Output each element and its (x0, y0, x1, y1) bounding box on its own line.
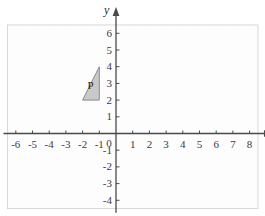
y-tick-label--2: -2 (103, 161, 112, 172)
x-tick-label--4: -4 (42, 139, 56, 150)
x-tick-label-6: 6 (209, 139, 223, 150)
y-tick-label-4: 4 (107, 61, 113, 72)
x-tick-label-3: 3 (159, 139, 173, 150)
x-tick-label-7: 7 (226, 139, 240, 150)
y-tick-label--1: -1 (103, 145, 112, 156)
y-tick-label-2: 2 (107, 95, 113, 106)
y-tick-label--4: -4 (103, 195, 112, 206)
x-tick-label-5: 5 (193, 139, 207, 150)
y-axis-name: y (104, 4, 109, 16)
y-tick-label--3: -3 (103, 178, 112, 189)
y-tick-label-3: 3 (107, 78, 113, 89)
grid-border (7, 25, 258, 209)
x-tick-label-4: 4 (176, 139, 190, 150)
x-tick-label-2: 2 (142, 139, 156, 150)
x-tick-label--2: -2 (76, 139, 90, 150)
x-tick-label-1: 1 (126, 139, 140, 150)
y-tick-label-1: 1 (107, 111, 113, 122)
y-tick-label-6: 6 (107, 28, 113, 39)
x-tick-label--3: -3 (59, 139, 73, 150)
x-tick-label--5: -5 (26, 139, 40, 150)
y-tick-label-5: 5 (107, 45, 113, 56)
x-tick-label-8: 8 (243, 139, 257, 150)
shape-label-p: P (87, 80, 99, 91)
x-tick-label--6: -6 (9, 139, 23, 150)
coordinate-plot-svg (0, 0, 265, 216)
coordinate-plane-figure: -6-5-4-3-2-1123456780654321-1-2-3-4yxP (0, 0, 265, 216)
